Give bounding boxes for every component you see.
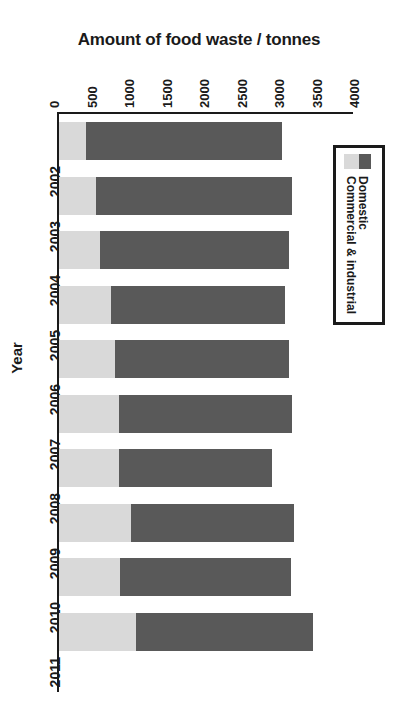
bar-segment-commercial-industrial — [59, 613, 136, 651]
bar-segment-commercial-industrial — [59, 504, 131, 542]
bar-segment-commercial-industrial — [59, 558, 120, 596]
category-axis-tick-label: 2011 — [47, 657, 63, 687]
bar-segment-domestic — [100, 231, 289, 269]
legend: Domestic Commercial & industrial — [333, 145, 385, 325]
value-axis-tick-label: 2500 — [235, 79, 250, 108]
bar-segment-domestic — [111, 286, 285, 324]
value-axis-title: Amount of food waste / tonnes — [0, 30, 398, 50]
value-axis-tick-label: 500 — [85, 86, 100, 108]
bar-segment-domestic — [96, 177, 292, 215]
bar-segment-domestic — [136, 613, 313, 651]
bar-segment-commercial-industrial — [59, 122, 86, 160]
bar-segment-domestic — [119, 395, 292, 433]
bar-segment-domestic — [86, 122, 282, 160]
legend-entry-commercial: Commercial & industrial — [342, 154, 364, 322]
bar-segment-commercial-industrial — [59, 286, 111, 324]
bar-segment-commercial-industrial — [59, 231, 100, 269]
value-axis-tick-label: 3500 — [310, 79, 325, 108]
value-axis-tick-label: 3000 — [272, 79, 287, 108]
bar-segment-commercial-industrial — [59, 340, 115, 378]
legend-swatch-commercial — [344, 154, 359, 169]
bar-segment-commercial-industrial — [59, 177, 96, 215]
bar-segment-domestic — [115, 340, 289, 378]
value-axis-tick-labels: 05001000150020002500300035004000 — [0, 62, 398, 110]
value-axis-tick-label: 2000 — [197, 79, 212, 108]
bar-segment-commercial-industrial — [59, 395, 119, 433]
bar-segment-commercial-industrial — [59, 449, 119, 487]
bar-segment-domestic — [119, 449, 272, 487]
value-axis-tick-label: 1000 — [122, 79, 137, 108]
bar-segment-domestic — [131, 504, 294, 542]
value-axis-tick-label: 0 — [47, 101, 62, 108]
stacked-bar-chart: Amount of food waste / tonnes 0500100015… — [0, 0, 398, 716]
legend-label-commercial: Commercial & industrial — [344, 176, 358, 314]
axis-top-line — [57, 112, 353, 114]
value-axis-tick-label: 4000 — [347, 79, 362, 108]
category-axis-title-text: Year — [8, 342, 25, 374]
value-axis-tick-label: 1500 — [160, 79, 175, 108]
bar-segment-domestic — [120, 558, 291, 596]
